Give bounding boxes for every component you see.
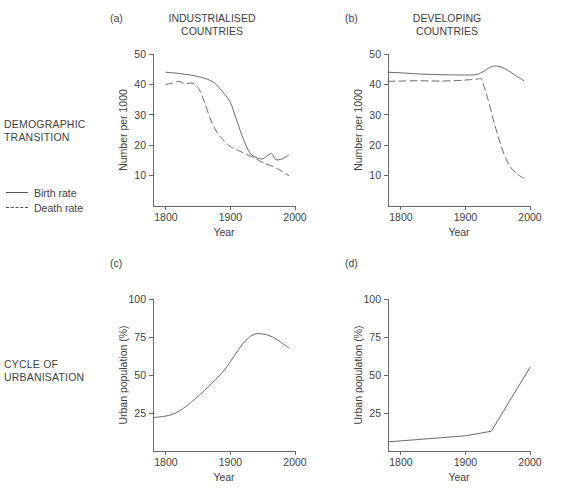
svg-text:40: 40 [134, 78, 146, 90]
svg-text:2000: 2000 [518, 456, 542, 468]
svg-text:75: 75 [369, 331, 381, 343]
svg-text:75: 75 [134, 331, 146, 343]
svg-text:Year: Year [448, 226, 470, 238]
svg-text:20: 20 [134, 139, 146, 151]
svg-text:50: 50 [134, 48, 146, 60]
svg-text:30: 30 [369, 109, 381, 121]
svg-text:Year: Year [448, 471, 470, 483]
svg-text:100: 100 [363, 293, 381, 305]
svg-text:1800: 1800 [389, 211, 413, 223]
svg-text:1800: 1800 [389, 456, 413, 468]
row-label-cycle-of-urbanisation: CYCLE OF URBANISATION [4, 358, 84, 384]
svg-text:Year: Year [213, 226, 235, 238]
svg-text:25: 25 [369, 407, 381, 419]
svg-text:2000: 2000 [283, 211, 307, 223]
legend-item-birth-rate: Birth rate [6, 185, 116, 200]
svg-text:50: 50 [369, 48, 381, 60]
svg-text:50: 50 [134, 369, 146, 381]
svg-text:2000: 2000 [518, 211, 542, 223]
legend-item-death-rate: Death rate [6, 200, 116, 215]
svg-text:1900: 1900 [454, 456, 478, 468]
row-label-demographic-transition: DEMOGRAPHIC TRANSITION [4, 118, 86, 144]
panel-c-urbanisation-industrialised: (c) 255075100180019002000YearUrban popul… [110, 255, 300, 490]
svg-text:Number per 1000: Number per 1000 [352, 89, 364, 171]
panel-a-plot: 1020304050180019002000YearNumber per 100… [110, 10, 300, 245]
legend: Birth rate Death rate [6, 185, 116, 215]
legend-swatch-solid-line-icon [6, 189, 28, 197]
panel-b-plot: 1020304050180019002000YearNumber per 100… [345, 10, 535, 245]
svg-text:25: 25 [134, 407, 146, 419]
legend-swatch-dashed-line-icon [6, 204, 28, 212]
svg-text:100: 100 [128, 293, 146, 305]
svg-text:Number per 1000: Number per 1000 [117, 89, 129, 171]
svg-text:1900: 1900 [454, 211, 478, 223]
svg-text:20: 20 [369, 139, 381, 151]
svg-text:1800: 1800 [154, 211, 178, 223]
svg-text:2000: 2000 [283, 456, 307, 468]
svg-text:Year: Year [213, 471, 235, 483]
legend-label-death-rate: Death rate [34, 202, 83, 214]
svg-text:Urban population (%): Urban population (%) [352, 325, 364, 424]
legend-label-birth-rate: Birth rate [34, 187, 77, 199]
panel-c-plot: 255075100180019002000YearUrban populatio… [110, 255, 300, 490]
svg-text:10: 10 [134, 169, 146, 181]
figure-demographic-transition-urbanisation: DEMOGRAPHIC TRANSITION CYCLE OF URBANISA… [0, 0, 561, 491]
svg-text:1900: 1900 [219, 456, 243, 468]
svg-text:10: 10 [369, 169, 381, 181]
panel-d-plot: 255075100180019002000YearUrban populatio… [345, 255, 535, 490]
svg-text:Urban population (%): Urban population (%) [117, 325, 129, 424]
panel-b-developing-countries: (b) DEVELOPING COUNTRIES 102030405018001… [345, 10, 535, 245]
svg-text:1800: 1800 [154, 456, 178, 468]
panel-d-urbanisation-developing: (d) 255075100180019002000YearUrban popul… [345, 255, 535, 490]
svg-text:30: 30 [134, 109, 146, 121]
svg-text:50: 50 [369, 369, 381, 381]
svg-text:40: 40 [369, 78, 381, 90]
panel-a-industrialised-countries: (a) INDUSTRIALISED COUNTRIES 10203040501… [110, 10, 300, 245]
svg-text:1900: 1900 [219, 211, 243, 223]
